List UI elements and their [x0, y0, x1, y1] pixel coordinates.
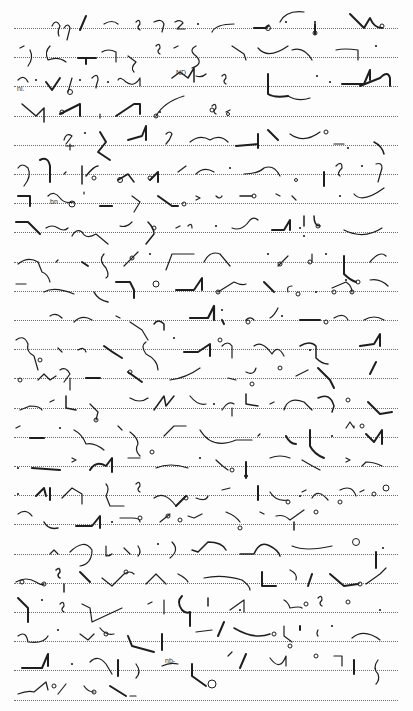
shorthand-outline: [192, 542, 226, 552]
shorthand-outline: [18, 682, 48, 694]
shorthand-outline: [336, 163, 342, 176]
shorthand-outline: [244, 167, 280, 176]
shorthand-outline: [130, 322, 148, 340]
shorthand-outline: [284, 626, 292, 642]
vowel-dot: [159, 111, 161, 113]
shorthand-outline: [102, 572, 134, 586]
shorthand-outline: [90, 458, 112, 472]
shorthand-outline: [92, 75, 98, 88]
vowel-dot: [267, 253, 269, 255]
shorthand-outline: [262, 572, 276, 586]
shorthand-outline: [58, 684, 66, 694]
vowel-dot: [215, 225, 217, 227]
shorthand-outline: [82, 166, 98, 184]
circle-hook: [314, 510, 318, 514]
shorthand-outline: [101, 254, 108, 278]
shorthand-outline: [334, 656, 342, 666]
shorthand-outline: [64, 172, 66, 174]
shorthand-outline: [268, 130, 278, 140]
shorthand-outline: [270, 456, 290, 458]
shorthand-outline: [166, 132, 172, 144]
circle-hook: [210, 108, 214, 112]
vowel-dot: [347, 147, 349, 149]
shorthand-outline: [342, 70, 370, 84]
circle-hook: [314, 654, 318, 658]
shorthand-outline: [90, 658, 112, 674]
vowel-dot: [173, 337, 175, 339]
shorthand-outline: [170, 542, 176, 558]
circle-hook: [360, 424, 364, 428]
vowel-dot: [309, 349, 311, 351]
vowel-dot: [149, 253, 151, 255]
shorthand-outline: [270, 656, 286, 666]
shorthand-outline: [16, 338, 38, 370]
margin-annotation: nl.: [17, 85, 24, 92]
shorthand-outline: [290, 570, 296, 580]
shorthand-line-18: [18, 510, 318, 530]
vowel-dot: [281, 315, 283, 317]
shorthand-outline: [20, 406, 42, 410]
circle-hook: [52, 684, 56, 688]
shorthand-outline: [364, 317, 384, 320]
shorthand-outline: [190, 137, 228, 142]
shorthand-outline: [98, 132, 110, 160]
vowel-dot: [157, 543, 159, 545]
circle-hook: [324, 320, 328, 324]
circle-hook: [278, 366, 282, 370]
shorthand-outline: [268, 74, 288, 97]
shorthand-line-4: [22, 96, 230, 122]
shorthand-outline: [176, 224, 192, 228]
shorthand-outline: [156, 465, 188, 468]
shorthand-line-24: [18, 682, 136, 696]
shorthand-outline: [136, 482, 140, 492]
shorthand-outline: [106, 484, 124, 506]
shorthand-outline: [116, 104, 140, 116]
shorthand-outline: [78, 58, 96, 64]
shorthand-outline: [216, 196, 222, 198]
circle-hook: [208, 680, 216, 688]
shorthand-outline: [292, 49, 312, 60]
shorthand-outline: [368, 402, 392, 414]
shorthand-line-2: [20, 44, 377, 72]
shorthand-outline: [276, 194, 296, 200]
shorthand-outline: [232, 218, 258, 229]
shorthand-line-19: [50, 539, 384, 569]
circle-hook: [18, 378, 22, 382]
shorthand-outline: [22, 104, 44, 122]
shorthand-outline: [330, 574, 358, 586]
shorthand-outline: [226, 110, 230, 112]
shorthand-line-1: [52, 12, 384, 40]
shorthand-outline: [376, 164, 382, 183]
shorthand-outline: [18, 598, 28, 622]
shorthand-outline: [116, 316, 120, 318]
shorthand-outline: [118, 78, 140, 86]
shorthand-outline: [154, 20, 164, 32]
shorthand-outline: [234, 628, 270, 636]
vowel-dot: [379, 609, 381, 611]
shorthand-outline: [80, 572, 90, 582]
shorthand-outline: [76, 516, 100, 528]
margin-annotation: ND: [176, 69, 186, 76]
shorthand-outline: [132, 196, 140, 212]
shorthand-outline: [196, 496, 208, 500]
shorthand-outline: [64, 25, 70, 40]
shorthand-outline: [318, 596, 322, 606]
shorthand-outline: [346, 458, 350, 462]
shorthand-outline: [154, 321, 164, 330]
shorthand-outline: [334, 315, 348, 320]
shorthand-outline: [104, 346, 122, 358]
shorthand-outline: [18, 77, 28, 82]
shorthand-outline: [278, 256, 288, 266]
shorthand-outline: [66, 396, 76, 410]
vowel-dot: [71, 663, 73, 665]
shorthand-outline: [104, 22, 118, 25]
vowel-dot: [199, 457, 201, 459]
shorthand-line-22: [18, 622, 380, 652]
shorthand-outline: [362, 462, 382, 466]
circle-hook: [288, 644, 292, 648]
shorthand-outline: [16, 222, 40, 234]
shorthand-outline: [146, 574, 166, 584]
circle-hook: [338, 500, 342, 504]
shorthand-outline: [222, 343, 232, 358]
circle-hook: [372, 492, 376, 496]
